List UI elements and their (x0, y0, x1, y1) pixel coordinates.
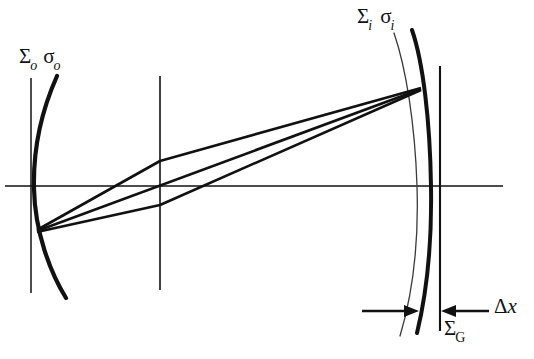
diagram-background (0, 0, 534, 359)
sigma-lower-o-glyph: σ (43, 44, 54, 68)
figure-caption-partial (82, 349, 382, 359)
label-object-surface: Σoσo (19, 46, 62, 70)
sigma-upper-g-subscript: G (455, 330, 465, 345)
sigma-lower-o-subscript: o (54, 58, 61, 73)
delta-glyph: Δ (494, 294, 508, 318)
x-variable-glyph: x (508, 294, 517, 318)
label-gaussian-surface: ΣG (444, 318, 466, 342)
optical-ray-diagram (0, 0, 534, 359)
label-delta-x: Δx (494, 296, 517, 317)
label-image-surface: Σiσi (357, 6, 395, 30)
sigma-lower-i-subscript: i (390, 18, 394, 33)
sigma-upper-o-subscript: o (30, 58, 37, 73)
sigma-upper-i-subscript: i (368, 18, 372, 33)
